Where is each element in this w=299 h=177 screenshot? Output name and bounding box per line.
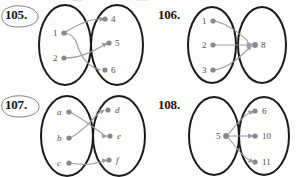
arrow-b-to-d [70, 112, 100, 138]
node-dot-c [66, 160, 71, 165]
node-label-106-left-0: 1 [202, 16, 207, 26]
node-label-105-right-0: 4 [111, 14, 116, 24]
node-dot-e [107, 133, 112, 138]
node-dot-2 [61, 55, 66, 60]
node-label-107-left-1: b [57, 133, 62, 143]
node-dot-2 [210, 42, 215, 47]
node-label-107-right-1: e [117, 131, 121, 141]
node-dot-6 [102, 67, 107, 72]
node-dot-10 [252, 133, 257, 138]
node-dot-4 [102, 16, 107, 21]
node-dot-3 [210, 67, 215, 72]
node-dot-a [66, 109, 71, 114]
node-label-105-left-0: 1 [53, 28, 58, 38]
problem-105: 105. 1 2 4 5 6 [0, 0, 150, 88]
node-dot-11 [252, 159, 257, 164]
node-dot-5 [106, 40, 111, 45]
problem-number-108: 108. [158, 97, 180, 113]
node-label-107-right-0: d [115, 105, 120, 115]
node-dot-b [66, 135, 71, 140]
node-dot-5 [223, 133, 229, 139]
node-label-108-right-2: 11 [262, 157, 271, 167]
arrow-a-to-e [70, 112, 103, 134]
worksheet-page: 105. 1 2 4 5 6 106. 1 [0, 0, 299, 177]
node-label-108-left-0: 5 [216, 131, 221, 141]
node-dot-1 [210, 18, 215, 23]
problem-108: 108. 5 6 10 11 [150, 88, 299, 177]
node-label-106-left-2: 3 [202, 65, 207, 75]
arrowhead-at-e [102, 134, 109, 139]
node-label-106-right-0: 8 [261, 40, 266, 50]
arrow-2-to-5 [64, 45, 104, 58]
problem-107: 107. a b c d e f [0, 88, 150, 177]
problem-106: 106. 1 2 3 8 [150, 0, 299, 88]
node-dot-f [106, 157, 111, 162]
node-label-106-left-1: 2 [202, 40, 207, 50]
problem-number-105: 105. [5, 7, 27, 23]
node-dot-6 [252, 108, 257, 113]
problem-number-107: 107. [5, 97, 27, 113]
arrow-6-to-1 [65, 33, 101, 70]
node-dot-8 [252, 42, 258, 48]
node-label-105-right-1: 5 [115, 38, 120, 48]
problem-number-106: 106. [158, 7, 180, 23]
node-label-108-right-1: 10 [262, 131, 271, 141]
node-label-107-left-0: a [57, 107, 62, 117]
node-label-108-right-0: 6 [262, 106, 267, 116]
node-label-107-right-2: f [116, 155, 119, 165]
domain-oval [39, 5, 91, 85]
node-dot-1 [61, 30, 66, 35]
node-label-107-left-2: c [57, 158, 61, 168]
node-label-105-right-2: 6 [111, 65, 116, 75]
node-dot-d [105, 107, 110, 112]
node-label-105-left-1: 2 [53, 53, 58, 63]
